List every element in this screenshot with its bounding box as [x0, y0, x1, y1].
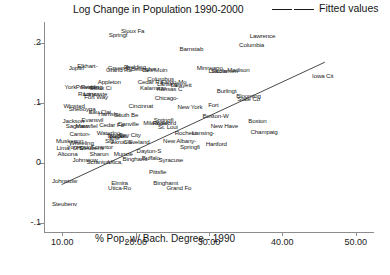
data-point-label: Sacramen — [211, 67, 238, 74]
data-point-label: Hartford — [206, 140, 227, 147]
y-tick-label: .2 — [33, 37, 41, 47]
data-point-label: New York — [177, 103, 202, 110]
data-point-label: Pittsfie — [149, 168, 166, 175]
data-point-label: Cincinnat — [129, 101, 153, 108]
data-point-label: Chicago- — [155, 94, 179, 101]
chart-title: Log Change in Population 1990-2000 — [73, 3, 244, 15]
data-point-label: State Co — [237, 95, 260, 102]
data-point-label: Springfi — [180, 143, 200, 150]
data-point-label: Canton- — [69, 130, 90, 137]
chart-header: Log Change in Population 1990-2000 Fitte… — [0, 2, 390, 18]
data-point-label: Lansing- — [192, 129, 215, 136]
data-point-label: Bay City — [119, 130, 141, 137]
data-point-label: New Have — [211, 122, 238, 129]
scatter-plot-chart: Log Change in Population 1990-2000 Fitte… — [0, 0, 390, 275]
x-tick-mark — [356, 232, 357, 236]
x-axis-label: % Pop. w/ Bach. Degree - 1990 — [0, 233, 330, 244]
y-tick-label: .1 — [33, 97, 41, 107]
data-point-label: Fort — [208, 100, 218, 107]
data-point-label: Kansas C — [157, 85, 183, 92]
data-point-label: York — [65, 83, 77, 90]
y-tick-label: 0 — [36, 157, 41, 167]
data-point-label: Syracuse — [159, 155, 184, 162]
data-point-label: Fort Way — [84, 93, 108, 100]
data-point-label: Burlingt — [217, 86, 237, 93]
data-point-label: Steubenv — [52, 199, 77, 206]
data-point-label: Utica, — [108, 158, 123, 165]
data-point-label: Boston — [248, 116, 266, 123]
legend-line-gap — [292, 8, 294, 10]
data-point-label: Columbia — [239, 40, 264, 47]
data-point-label: Champaig — [250, 127, 277, 134]
data-point-label: Sioux Fa — [121, 26, 144, 33]
data-point-label: Boston-W — [203, 112, 229, 119]
data-point-label: Cleveland — [123, 137, 149, 144]
x-tick-label: 50.00 — [344, 237, 367, 247]
data-point-label: Iowa Cit — [312, 71, 333, 78]
data-point-label: Utica-Ro — [108, 184, 131, 191]
data-point-label: Mansfiel — [76, 121, 98, 128]
data-point-label: Grand Fo — [166, 184, 191, 191]
plot-area: .2.10-.1 10.0020.0030.0040.0050.00 Sprin… — [44, 22, 374, 232]
data-point-label: Dayton-S — [137, 146, 162, 153]
data-point-label: South Be — [114, 110, 138, 117]
data-point-label: Lawrence — [250, 32, 276, 39]
data-point-label: Barnstab — [180, 44, 204, 51]
data-point-label: Scranton — [86, 157, 110, 164]
data-point-label: Elkhart- — [77, 61, 97, 68]
y-tick-label: -.1 — [30, 217, 41, 227]
data-point-label: Des Moin — [142, 65, 167, 72]
data-point-label: Johnstow — [52, 176, 77, 183]
data-point-label: Danville — [118, 120, 139, 127]
legend-label-fitted-values: Fitted values — [319, 2, 379, 14]
